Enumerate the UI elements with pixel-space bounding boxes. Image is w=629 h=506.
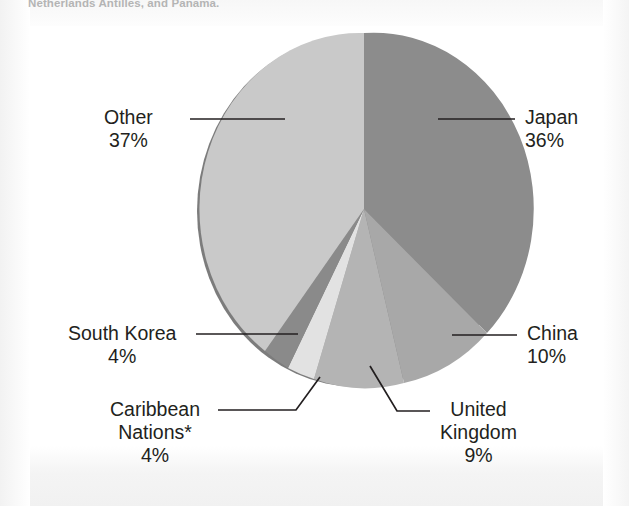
pie-label-south-korea-value: 4% (68, 345, 176, 368)
chart-page: Netherlands Antilles, and Panama. (0, 0, 629, 506)
pie-label-japan: Japan 36% (525, 106, 578, 152)
pie-label-other: Other 37% (104, 106, 153, 152)
pie-label-caribbean-name1: Caribbean (110, 398, 200, 420)
pie-label-united-kingdom: United Kingdom 9% (440, 398, 517, 466)
pie-label-china: China 10% (527, 322, 578, 368)
pie-label-china-value: 10% (527, 345, 578, 368)
pie-label-china-name: China (527, 322, 578, 344)
pie-label-caribbean-name2: Nations* (110, 421, 200, 444)
pie-chart (0, 0, 629, 506)
pie-label-japan-name: Japan (525, 106, 578, 128)
pie-label-other-value: 37% (104, 129, 153, 152)
pie-label-south-korea-name: South Korea (68, 322, 176, 344)
pie-label-caribbean-value: 4% (110, 444, 200, 467)
leader-line-caribbean (218, 377, 320, 410)
pie-label-other-name: Other (104, 106, 153, 128)
pie-label-united-kingdom-name1: United (450, 398, 506, 420)
pie-label-japan-value: 36% (525, 129, 578, 152)
pie-label-united-kingdom-value: 9% (440, 444, 517, 467)
pie-label-caribbean-nations: Caribbean Nations* 4% (110, 398, 200, 466)
pie-label-united-kingdom-name2: Kingdom (440, 421, 517, 444)
pie-label-south-korea: South Korea 4% (68, 322, 176, 368)
